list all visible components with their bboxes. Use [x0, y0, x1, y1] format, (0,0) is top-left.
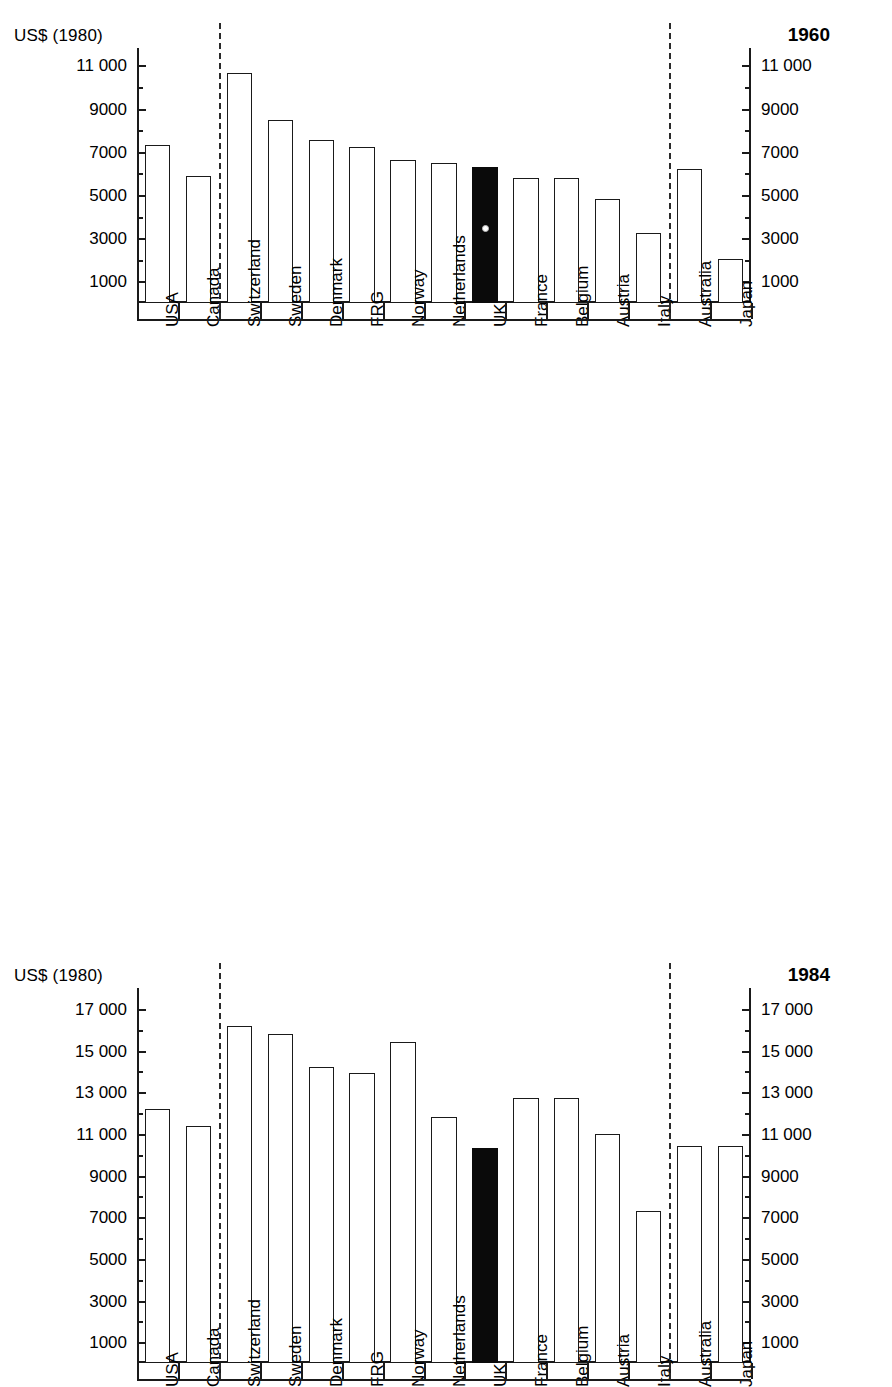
y-tick-major-left: [137, 65, 146, 67]
category-axis-rule: [137, 1379, 751, 1381]
y-tick-label-right: 17 000: [761, 1001, 813, 1018]
y-tick-label-left: 7000: [14, 144, 127, 161]
category-divider: [505, 1363, 507, 1379]
y-tick-minor-left: [137, 1030, 143, 1032]
y-tick-major-right: [742, 1092, 751, 1094]
y-tick-label-left: 3000: [14, 230, 127, 247]
category-divider: [342, 303, 344, 319]
bar-usa[interactable]: [145, 145, 170, 303]
y-tick-minor-left: [137, 260, 143, 262]
y-tick-minor-right: [745, 87, 751, 89]
y-tick-minor-left: [137, 1071, 143, 1073]
y-tick-major-right: [742, 1134, 751, 1136]
y-tick-minor-left: [137, 1155, 143, 1157]
y-tick-major-right: [742, 152, 751, 154]
group-separator: [669, 23, 671, 319]
y-tick-label-right: 5000: [761, 1251, 799, 1268]
category-divider: [178, 1363, 180, 1379]
y-tick-minor-right: [745, 260, 751, 262]
y-tick-minor-left: [137, 1238, 143, 1240]
y-tick-label-right: 11 000: [761, 1126, 812, 1143]
category-divider: [383, 1363, 385, 1379]
bar-austria[interactable]: [595, 1134, 620, 1363]
y-tick-minor-left: [137, 1113, 143, 1115]
chart-1984: US$ (1980) 1984 100010003000300050005000…: [0, 470, 892, 990]
category-divider: [464, 303, 466, 319]
y-tick-minor-right: [745, 1196, 751, 1198]
y-tick-label-left: 1000: [14, 273, 127, 290]
category-divider: [301, 1363, 303, 1379]
bar-sweden[interactable]: [268, 1034, 293, 1363]
y-tick-minor-left: [137, 87, 143, 89]
category-divider: [178, 303, 180, 319]
category-divider: [751, 303, 753, 319]
bar-italy[interactable]: [636, 1211, 661, 1363]
category-divider: [628, 1363, 630, 1379]
category-divider: [260, 1363, 262, 1379]
y-tick-label-right: 3000: [761, 1293, 799, 1310]
y-tick-label-right: 13 000: [761, 1084, 813, 1101]
bar-norway[interactable]: [390, 1042, 415, 1363]
y-tick-minor-right: [745, 1071, 751, 1073]
y-tick-label-right: 3000: [761, 230, 799, 247]
category-divider: [424, 1363, 426, 1379]
category-divider: [383, 303, 385, 319]
y-tick-major-right: [742, 1009, 751, 1011]
y-tick-minor-right: [745, 1321, 751, 1323]
y-tick-major-right: [742, 238, 751, 240]
y-tick-minor-left: [137, 1321, 143, 1323]
y-tick-major-right: [742, 1301, 751, 1303]
y-tick-minor-right: [745, 217, 751, 219]
bar-japan[interactable]: [718, 1146, 743, 1363]
y-tick-label-right: 1000: [761, 1334, 799, 1351]
y-tick-major-right: [742, 195, 751, 197]
bar-usa[interactable]: [145, 1109, 170, 1363]
group-separator: [669, 963, 671, 1379]
y-tick-minor-right: [745, 1238, 751, 1240]
y-tick-minor-right: [745, 1280, 751, 1282]
category-divider: [301, 303, 303, 319]
group-separator: [219, 23, 221, 319]
bar-france[interactable]: [513, 1098, 538, 1363]
category-divider: [137, 303, 139, 319]
category-divider: [546, 1363, 548, 1379]
y-tick-major-right: [742, 1259, 751, 1261]
y-tick-label-left: 3000: [14, 1293, 127, 1310]
bar-frg[interactable]: [349, 147, 374, 303]
group-separator: [219, 963, 221, 1379]
y-tick-minor-right: [745, 1113, 751, 1115]
category-divider: [137, 1363, 139, 1379]
y-tick-major-left: [137, 1009, 146, 1011]
category-divider: [587, 1363, 589, 1379]
y-tick-label-right: 7000: [761, 1209, 799, 1226]
y-tick-label-right: 9000: [761, 101, 799, 118]
y-tick-label-right: 5000: [761, 187, 799, 204]
y-tick-label-left: 11 000: [14, 1126, 127, 1143]
category-divider: [424, 303, 426, 319]
y-tick-minor-right: [745, 130, 751, 132]
y-tick-major-right: [742, 65, 751, 67]
bar-uk[interactable]: [472, 1148, 497, 1363]
y-tick-minor-left: [137, 130, 143, 132]
y-tick-label-left: 1000: [14, 1334, 127, 1351]
y-tick-label-left: 5000: [14, 187, 127, 204]
bar-italy[interactable]: [636, 233, 661, 303]
chart-title-1960: 1960: [788, 24, 830, 46]
y-tick-minor-right: [745, 1030, 751, 1032]
category-divider: [505, 303, 507, 319]
category-divider: [751, 1363, 753, 1379]
y-tick-label-right: 11 000: [761, 57, 812, 74]
y-tick-major-right: [742, 1051, 751, 1053]
category-axis-rule: [137, 319, 751, 321]
category-divider: [464, 1363, 466, 1379]
y-tick-minor-right: [745, 173, 751, 175]
y-tick-label-right: 9000: [761, 1168, 799, 1185]
bar-uk[interactable]: [472, 167, 497, 303]
bar-frg[interactable]: [349, 1073, 374, 1363]
y-tick-major-left: [137, 1092, 146, 1094]
y-tick-major-left: [137, 109, 146, 111]
bar-belgium[interactable]: [554, 1098, 579, 1363]
y-tick-label-left: 9000: [14, 1168, 127, 1185]
category-divider: [710, 1363, 712, 1379]
y-tick-label-left: 7000: [14, 1209, 127, 1226]
